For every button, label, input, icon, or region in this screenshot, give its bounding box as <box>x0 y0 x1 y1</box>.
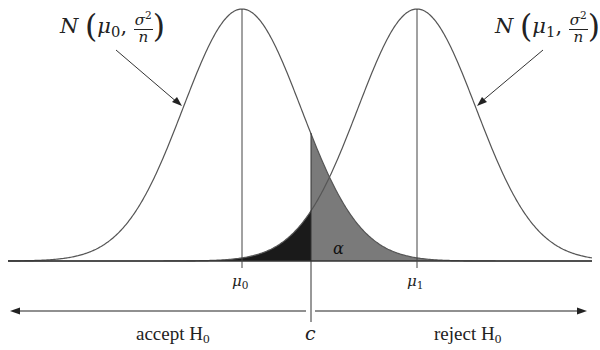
decision-axis <box>10 308 587 315</box>
null-pointer-arrowhead-icon <box>172 97 182 106</box>
alt-n: n <box>569 30 588 46</box>
null-distribution-curve <box>8 9 592 261</box>
critical-value-label: c <box>305 322 316 344</box>
beta-region-fill <box>8 211 311 261</box>
alt-sigma-exp: 2 <box>580 9 587 21</box>
alt-distribution-label: N (μ1, σ2n) <box>495 8 600 46</box>
alt-pointer-line <box>481 50 543 102</box>
reject-subscript: 0 <box>495 331 502 346</box>
mu0-tick-label: μ0 <box>232 272 248 291</box>
null-mean-subscript: 0 <box>111 23 120 40</box>
mu1-tick-label: μ1 <box>407 272 423 291</box>
alt-func-symbol: N <box>495 14 513 38</box>
alternative-distribution-curve <box>8 9 592 261</box>
right-arrowhead-icon <box>577 308 587 315</box>
alpha-region-fill <box>311 134 592 261</box>
null-sigma: σ <box>135 11 145 29</box>
null-mean-symbol: μ <box>97 14 111 38</box>
pointer-arrows <box>116 50 543 106</box>
alt-mean-subscript: 1 <box>546 23 555 40</box>
null-sigma-exp: 2 <box>145 9 152 21</box>
mu0-subscript: 0 <box>242 279 249 291</box>
reject-text: reject H <box>434 323 495 344</box>
left-arrowhead-icon <box>10 308 20 315</box>
null-distribution-label: N (μ0, σ2n) <box>60 8 165 46</box>
alt-mean-symbol: μ <box>532 14 546 38</box>
mu1-subscript: 1 <box>417 279 424 291</box>
alpha-label: α <box>333 239 344 258</box>
accept-subscript: 0 <box>203 331 210 346</box>
null-n: n <box>134 30 153 46</box>
accept-text: accept H <box>136 323 203 344</box>
null-pointer-line <box>116 50 178 103</box>
alt-sigma: σ <box>570 11 580 29</box>
reject-region-label: reject H0 <box>434 323 501 347</box>
mu0-symbol: μ <box>232 272 242 290</box>
null-func-symbol: N <box>60 14 78 38</box>
accept-region-label: accept H0 <box>136 323 210 347</box>
mu1-symbol: μ <box>407 272 417 290</box>
